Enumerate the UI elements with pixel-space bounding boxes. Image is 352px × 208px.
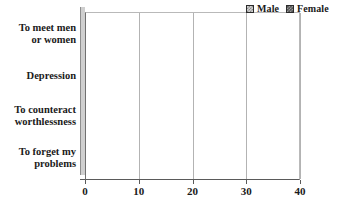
x-tick-10	[139, 180, 140, 184]
category-label-0-line1: To meet men	[0, 22, 76, 34]
legend-entry-female: Female	[286, 4, 329, 14]
x-tick-label-40: 40	[295, 186, 306, 197]
x-tick-label-30: 30	[241, 186, 252, 197]
category-label-2: To counteract worthlessness	[0, 104, 76, 128]
category-label-0: To meet men or women	[0, 22, 76, 46]
category-label-3: To forget my problems	[0, 146, 76, 170]
category-label-2-line1: To counteract	[0, 104, 76, 116]
legend-label-male: Male	[257, 4, 279, 14]
category-label-1-line1: Depression	[0, 70, 76, 82]
x-tick-label-10: 10	[133, 186, 144, 197]
x-tick-label-20: 20	[187, 186, 198, 197]
legend-label-female: Female	[297, 4, 329, 14]
category-label-1: Depression	[0, 70, 76, 82]
plot-area	[85, 12, 300, 180]
x-tick-0	[85, 180, 86, 184]
chart-legend: Male Female	[246, 2, 329, 15]
female-swatch-icon	[286, 5, 294, 13]
x-tick-30	[246, 180, 247, 184]
gridline-40	[300, 13, 301, 179]
category-label-3-line1: To forget my	[0, 146, 76, 158]
gridline-30	[246, 13, 247, 179]
x-tick-40	[300, 180, 301, 184]
x-tick-label-0: 0	[82, 186, 88, 197]
category-label-2-line2: worthlessness	[0, 116, 76, 128]
male-swatch-icon	[246, 5, 254, 13]
category-label-0-line2: or women	[0, 34, 76, 46]
x-tick-20	[193, 180, 194, 184]
bar-chart: Male Female To meet men or women Depress…	[0, 0, 352, 208]
gridline-10	[139, 13, 140, 179]
legend-entry-male: Male	[246, 4, 279, 14]
gridline-20	[193, 13, 194, 179]
category-label-3-line2: problems	[0, 158, 76, 170]
